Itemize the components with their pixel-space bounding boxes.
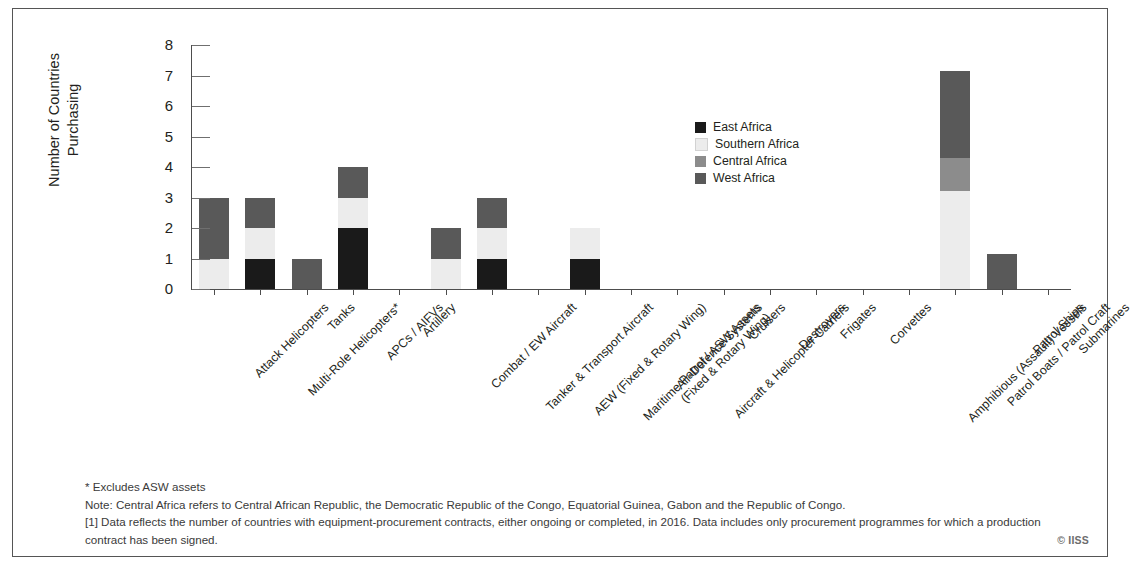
x-tick-mark [816, 290, 817, 295]
bar-segment-east-africa [338, 228, 368, 289]
x-tick-mark [585, 290, 586, 295]
y-tick-label-0: 0 [143, 281, 173, 296]
y-tick-label-1: 1 [143, 251, 173, 266]
legend-label-west-africa: West Africa [713, 172, 775, 185]
footnotes-block: * Excludes ASW assets Note: Central Afri… [85, 478, 1085, 548]
y-axis-title: Number of Countries Purchasing [45, 35, 83, 205]
chart-frame: Number of Countries Purchasing 012345678… [12, 8, 1108, 557]
x-axis-label: Combat / EW Aircraft [488, 299, 580, 391]
bar-patrol-ships [987, 254, 1017, 289]
legend-item: West Africa [695, 170, 799, 186]
footnote-source-1: [1] Data reflects the number of countrie… [85, 513, 1085, 548]
bar-segment-west-africa [292, 259, 322, 290]
x-tick-mark [492, 290, 493, 295]
x-axis-label: Corvettes [887, 299, 936, 348]
legend-label-southern-africa: Southern Africa [715, 138, 799, 151]
x-tick-mark [214, 290, 215, 295]
y-tick-mark-8 [192, 45, 210, 46]
bar-segment-southern-africa [477, 228, 507, 259]
bar-segment-southern-africa [940, 191, 970, 289]
legend-swatch-southern-africa [695, 138, 708, 151]
legend-swatch-east-africa [695, 122, 706, 133]
y-tick-label-2: 2 [143, 220, 173, 235]
y-tick-label-3: 3 [143, 190, 173, 205]
bar-apcs-aifvs [338, 167, 368, 289]
x-tick-mark [863, 290, 864, 295]
footnote-asterisk: * Excludes ASW assets [85, 478, 1085, 496]
x-axis-label: Patrol Boats / Patrol Craft [1005, 299, 1115, 409]
footnote-note: Note: Central Africa refers to Central A… [85, 496, 1085, 514]
legend-swatch-central-africa [695, 156, 706, 167]
bar-multi-role-helicopters [245, 198, 275, 290]
bar-segment-west-africa [987, 254, 1017, 289]
bar-patrol-boats-patrol-craft [940, 71, 970, 289]
bar-maritime-patrol-asw-assets-fixed-rotary-wing [570, 228, 600, 289]
bar-attack-helicopters [199, 198, 229, 290]
y-tick-label-8: 8 [143, 37, 173, 52]
bar-segment-southern-africa [245, 228, 275, 259]
x-tick-mark [353, 290, 354, 295]
bar-segment-east-africa [477, 259, 507, 290]
y-tick-mark-0 [192, 289, 210, 290]
x-tick-mark [1002, 290, 1003, 295]
copyright-notice: © IISS [1057, 534, 1089, 546]
legend-item: Central Africa [695, 153, 799, 169]
x-axis-label: Attack Helicopters [252, 299, 333, 380]
y-tick-label-4: 4 [143, 159, 173, 174]
x-tick-mark [307, 290, 308, 295]
y-tick-mark-7 [192, 76, 210, 77]
x-tick-mark [446, 290, 447, 295]
y-tick-label-6: 6 [143, 98, 173, 113]
y-tick-label-5: 5 [143, 129, 173, 144]
bar-segment-west-africa [245, 198, 275, 229]
legend-label-central-africa: Central Africa [713, 155, 787, 168]
y-tick-mark-5 [192, 137, 210, 138]
x-tick-mark [909, 290, 910, 295]
bar-combat-ew-aircraft [431, 228, 461, 289]
x-tick-mark [399, 290, 400, 295]
y-tick-mark-6 [192, 106, 210, 107]
y-tick-mark-1 [192, 259, 210, 260]
x-axis-label: Tanks [325, 299, 359, 333]
bar-segment-west-africa [431, 228, 461, 259]
bar-segment-southern-africa [338, 198, 368, 229]
legend-item: Southern Africa [695, 136, 799, 152]
plot-area [191, 45, 1071, 289]
y-tick-mark-4 [192, 167, 210, 168]
bar-tanks [292, 259, 322, 290]
bar-segment-southern-africa [570, 228, 600, 259]
chart-legend: East Africa Southern Africa Central Afri… [695, 119, 799, 187]
y-tick-mark-2 [192, 228, 210, 229]
y-axis-tick-labels: 012345678 [141, 9, 173, 309]
y-tick-mark-3 [192, 198, 210, 199]
x-tick-mark [724, 290, 725, 295]
y-tick-label-7: 7 [143, 68, 173, 83]
x-tick-mark [1048, 290, 1049, 295]
bar-segment-west-africa [940, 71, 970, 158]
bar-segment-east-africa [245, 259, 275, 290]
legend-item: East Africa [695, 119, 799, 135]
x-tick-mark [631, 290, 632, 295]
bar-segment-east-africa [570, 259, 600, 290]
bar-segment-central-africa [940, 158, 970, 192]
bar-tanker-transport-aircraft [477, 198, 507, 290]
x-tick-mark [770, 290, 771, 295]
x-tick-mark [538, 290, 539, 295]
bar-segment-southern-africa [199, 259, 229, 290]
x-tick-mark [955, 290, 956, 295]
x-tick-mark [677, 290, 678, 295]
bar-segment-southern-africa [431, 259, 461, 290]
legend-swatch-west-africa [695, 173, 706, 184]
bar-segment-west-africa [477, 198, 507, 229]
x-axis-label: Destroyers [796, 299, 849, 352]
bar-segment-west-africa [338, 167, 368, 198]
legend-label-east-africa: East Africa [713, 121, 772, 134]
x-tick-mark [260, 290, 261, 295]
